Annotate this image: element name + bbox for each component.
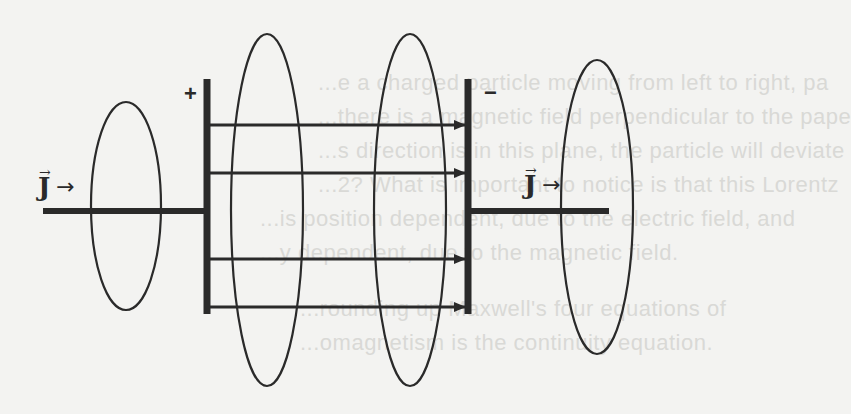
right-arrow-icon: → bbox=[542, 174, 560, 196]
negative-sign: − bbox=[484, 82, 497, 104]
current-density-symbol: → J bbox=[38, 174, 50, 200]
electric-field-arrows bbox=[209, 125, 465, 307]
vector-arrow-icon: → bbox=[525, 163, 537, 177]
right-arrow-icon: → bbox=[56, 176, 74, 198]
vector-arrow-icon: → bbox=[39, 165, 51, 179]
current-density-symbol: → J bbox=[524, 172, 536, 198]
amperian-loop-4 bbox=[561, 60, 633, 354]
current-density-label-left: → J → bbox=[38, 174, 75, 200]
positive-sign: + bbox=[184, 83, 197, 105]
current-density-label-right: → J → bbox=[524, 172, 561, 198]
amperian-loop-1 bbox=[91, 102, 161, 310]
amperian-loop-2 bbox=[231, 34, 303, 386]
amperian-loop-3 bbox=[374, 34, 446, 386]
